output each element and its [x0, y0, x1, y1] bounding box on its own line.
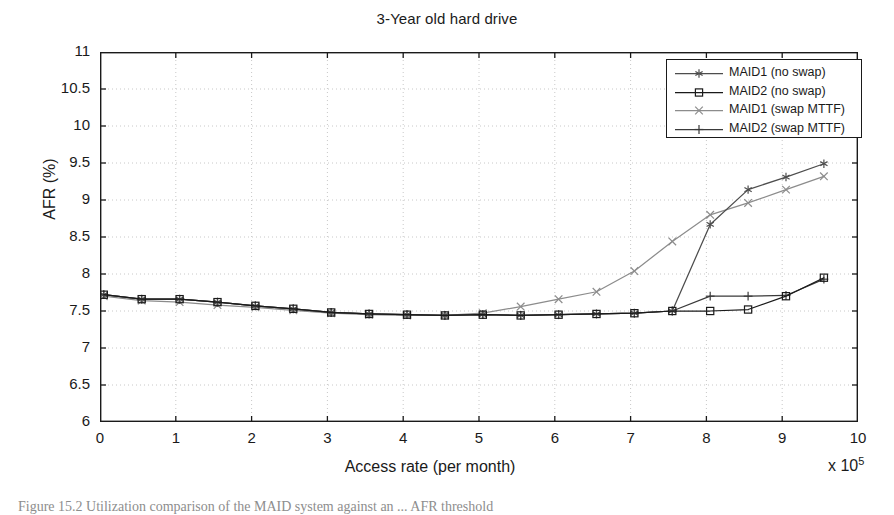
legend-item-label: MAID2 (no swap)	[729, 84, 826, 98]
square-marker-icon	[673, 83, 725, 102]
x-axis-multiplier-exponent: 5	[858, 455, 864, 467]
x-tick-label: 8	[686, 429, 726, 446]
x-marker-icon	[673, 101, 725, 120]
plus-marker-icon	[673, 120, 725, 139]
legend-item-label: MAID2 (swap MTTF)	[729, 121, 845, 135]
x-tick-label: 0	[80, 429, 120, 446]
y-tick-label: 11	[34, 42, 90, 59]
y-tick-label: 10	[34, 116, 90, 133]
legend-item: MAID2 (swap MTTF)	[673, 120, 859, 139]
asterisk-marker-icon	[673, 64, 725, 83]
legend-item-label: MAID1 (swap MTTF)	[729, 102, 845, 116]
y-tick-label: 7.5	[34, 301, 90, 318]
x-tick-label: 9	[762, 429, 802, 446]
x-tick-label: 4	[383, 429, 423, 446]
x-tick-label: 10	[838, 429, 878, 446]
y-tick-label: 6	[34, 412, 90, 429]
y-tick-label: 8	[34, 264, 90, 281]
x-axis-multiplier: x 105	[828, 455, 864, 475]
x-tick-label: 7	[611, 429, 651, 446]
y-tick-label: 9	[34, 190, 90, 207]
legend-item: MAID2 (no swap)	[673, 83, 859, 102]
x-axis-multiplier-base: x 10	[828, 457, 858, 474]
legend: MAID1 (no swap)MAID2 (no swap)MAID1 (swa…	[666, 59, 862, 138]
legend-item: MAID1 (no swap)	[673, 64, 859, 83]
y-tick-label: 7	[34, 338, 90, 355]
y-axis-label: AFR (%)	[41, 109, 59, 269]
x-tick-label: 2	[232, 429, 272, 446]
x-tick-label: 5	[459, 429, 499, 446]
y-tick-label: 6.5	[34, 375, 90, 392]
figure-caption: Figure 15.2 Utilization comparison of th…	[18, 499, 878, 515]
x-tick-label: 1	[156, 429, 196, 446]
x-tick-label: 3	[307, 429, 347, 446]
legend-item-label: MAID1 (no swap)	[729, 65, 826, 79]
x-axis-label: Access rate (per month)	[210, 458, 650, 476]
y-tick-label: 9.5	[34, 153, 90, 170]
y-tick-label: 10.5	[34, 79, 90, 96]
y-tick-label: 8.5	[34, 227, 90, 244]
chart-title: 3-Year old hard drive	[0, 10, 894, 27]
x-tick-label: 6	[535, 429, 575, 446]
legend-item: MAID1 (swap MTTF)	[673, 101, 859, 120]
